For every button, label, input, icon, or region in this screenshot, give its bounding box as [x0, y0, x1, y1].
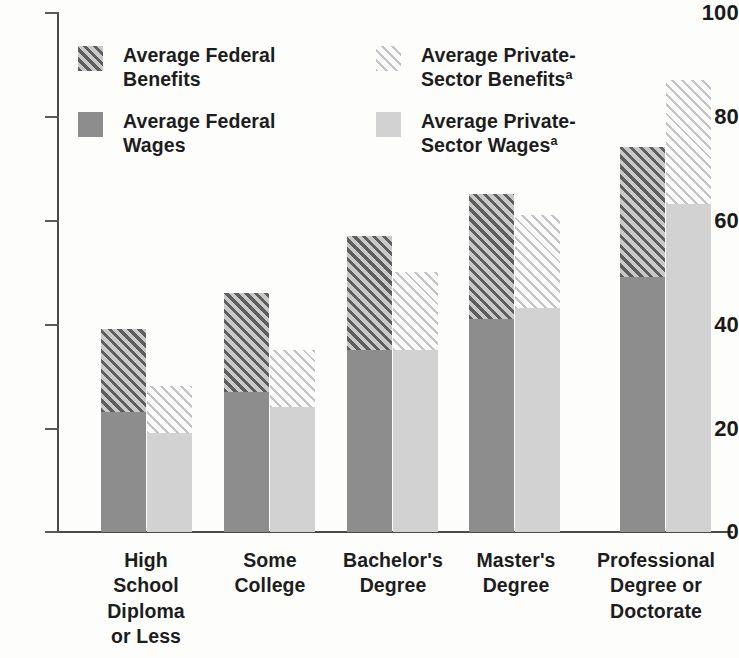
legend-label-private-wages: Average Private- Sector Wagesa [421, 110, 576, 158]
bar-segment-federal-benefits [620, 147, 665, 277]
legend-item-private-wages: Average Private- Sector Wagesa [376, 110, 576, 158]
bar-segment-private-wages [270, 407, 315, 532]
bar-federal-2 [347, 236, 392, 532]
bar-federal-1 [224, 293, 269, 532]
bar-segment-private-wages [515, 308, 560, 532]
bar-segment-private-benefits [393, 272, 438, 350]
bar-segment-private-wages [147, 433, 192, 532]
bar-federal-4 [620, 147, 665, 532]
legend-item-federal-benefits: Average Federal Benefits [78, 44, 276, 92]
bar-federal-0 [101, 329, 146, 532]
dark-solid-swatch-icon [78, 112, 103, 137]
light-solid-swatch-icon [376, 112, 401, 137]
y-axis-tick-40 [45, 324, 59, 326]
light-hatch-swatch-icon [376, 46, 401, 71]
bar-chart: 100 80 60 40 20 0 Average Federal Benefi… [0, 0, 739, 658]
bar-segment-federal-benefits [347, 236, 392, 350]
bar-segment-federal-wages [469, 319, 514, 532]
y-axis-tick-100 [45, 12, 59, 14]
bar-segment-federal-benefits [101, 329, 146, 412]
bar-segment-private-benefits [666, 80, 711, 205]
bar-segment-federal-wages [224, 392, 269, 532]
bar-segment-federal-wages [101, 412, 146, 532]
legend-item-federal-wages: Average Federal Wages [78, 110, 276, 158]
bar-private-3 [515, 215, 560, 532]
bar-segment-federal-benefits [469, 194, 514, 319]
bar-private-1 [270, 350, 315, 532]
bar-segment-federal-wages [620, 277, 665, 532]
bar-segment-private-wages [393, 350, 438, 532]
bar-federal-3 [469, 194, 514, 532]
legend-label-private-benefits: Average Private- Sector Benefitsa [421, 44, 576, 92]
y-axis-tick-60 [45, 220, 59, 222]
legend-footnote-marker-private-wages: a [550, 133, 557, 147]
y-axis-tick-80 [45, 116, 59, 118]
bar-segment-federal-benefits [224, 293, 269, 392]
y-axis-tick-20 [45, 428, 59, 430]
bar-segment-private-benefits [147, 386, 192, 433]
bar-segment-federal-wages [347, 350, 392, 532]
legend-item-private-benefits: Average Private- Sector Benefitsa [376, 44, 576, 92]
bar-private-0 [147, 386, 192, 532]
bar-group-4 [620, 12, 711, 532]
y-axis-tick-0 [45, 531, 59, 533]
x-axis-label-professional: Professional Degree or Doctorate [578, 548, 734, 624]
bar-private-2 [393, 272, 438, 532]
legend-label-federal-benefits: Average Federal Benefits [123, 44, 276, 92]
x-axis-label-masters: Master's Degree [443, 548, 589, 599]
legend-footnote-marker-private-benefits: a [566, 67, 573, 81]
bar-segment-private-wages [666, 204, 711, 532]
dark-hatch-swatch-icon [78, 46, 103, 71]
legend-label-federal-wages: Average Federal Wages [123, 110, 276, 158]
bar-segment-private-benefits [270, 350, 315, 407]
bar-segment-private-benefits [515, 215, 560, 309]
bar-private-4 [666, 80, 711, 532]
